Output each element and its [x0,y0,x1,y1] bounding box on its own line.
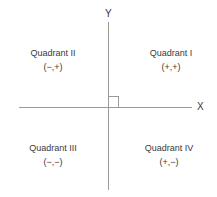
y-axis-label: Y [105,9,112,19]
quadrant-one-name: Quadrant I [128,47,214,61]
quadrant-three-name: Quadrant III [10,142,96,156]
quadrant-three-signs: (−,−) [10,156,96,170]
quadrant-one-signs: (+,+) [128,61,214,75]
quadrant-two-signs: (−,+) [10,61,96,75]
quadrant-four-name: Quadrant IV [126,142,212,156]
quadrant-one-label: Quadrant I (+,+) [128,47,214,75]
quadrant-two-label: Quadrant II (−,+) [10,47,96,75]
quadrant-four-signs: (+,−) [126,156,212,170]
x-axis-line [19,107,192,108]
right-angle-marker-icon [109,96,119,107]
quadrant-three-label: Quadrant III (−,−) [10,142,96,170]
quadrant-two-name: Quadrant II [10,47,96,61]
coordinate-plane-diagram: Y X Quadrant II (−,+) Quadrant I (+,+) Q… [0,0,217,197]
x-axis-label: X [197,102,204,112]
quadrant-four-label: Quadrant IV (+,−) [126,142,212,170]
